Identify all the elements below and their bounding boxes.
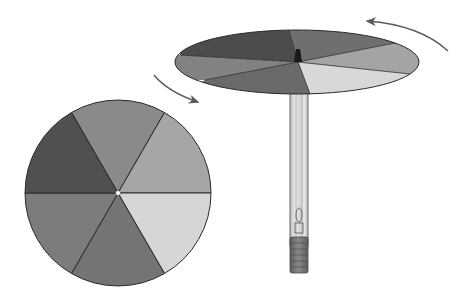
pencil	[290, 90, 308, 273]
wheel-center-dot	[116, 191, 121, 196]
rotation-arrow-left-icon	[154, 75, 198, 102]
flat-color-wheel	[25, 100, 211, 286]
color-wheel-diagram	[0, 0, 475, 308]
